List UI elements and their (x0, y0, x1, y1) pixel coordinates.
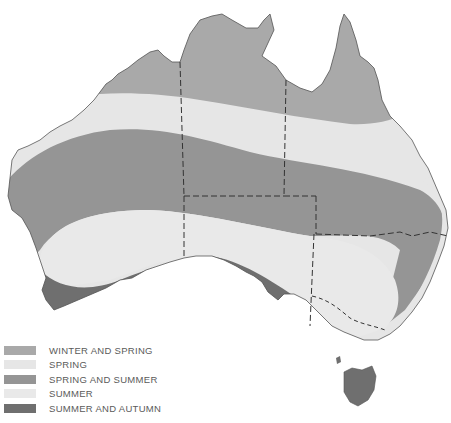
swatch-summer-and-autumn (4, 404, 36, 413)
legend-item-spring-and-summer: SPRING AND SUMMER (4, 372, 161, 387)
legend-item-summer: SUMMER (4, 387, 161, 402)
legend-label: WINTER AND SPRING (49, 345, 153, 356)
legend-label: SUMMER AND AUTUMN (49, 403, 161, 414)
island (336, 356, 341, 364)
legend-label: SUMMER (49, 388, 93, 399)
tasmania (344, 366, 376, 406)
legend-label: SPRING AND SUMMER (49, 374, 158, 385)
legend-item-winter-and-spring: WINTER AND SPRING (4, 343, 161, 358)
swatch-summer (4, 389, 36, 398)
legend: WINTER AND SPRING SPRING SPRING AND SUMM… (4, 343, 161, 416)
swatch-spring (4, 360, 36, 369)
legend-item-spring: SPRING (4, 358, 161, 373)
legend-label: SPRING (49, 359, 87, 370)
legend-item-summer-and-autumn: SUMMER AND AUTUMN (4, 401, 161, 416)
swatch-spring-and-summer (4, 375, 36, 384)
swatch-winter-and-spring (4, 346, 36, 355)
